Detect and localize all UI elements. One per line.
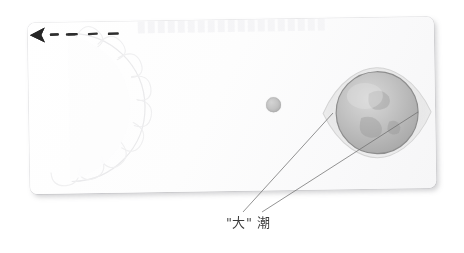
tide-label-quote-close: " xyxy=(246,215,252,230)
tide-label: "大" 潮 xyxy=(226,215,271,230)
tide-label-char-chao: 潮 xyxy=(257,215,271,230)
paper-card xyxy=(28,17,437,194)
earth-icon xyxy=(316,55,436,172)
paper-card-surface xyxy=(28,17,437,194)
moon-body xyxy=(266,97,281,112)
diagram-canvas: "大" 潮 xyxy=(0,0,464,253)
arrow-left-dashed-short-icon xyxy=(28,22,84,47)
tide-label-char-da: 大 xyxy=(232,215,246,230)
diagram-content-plane xyxy=(28,17,437,194)
earth-with-tidal-bulge xyxy=(316,55,436,172)
